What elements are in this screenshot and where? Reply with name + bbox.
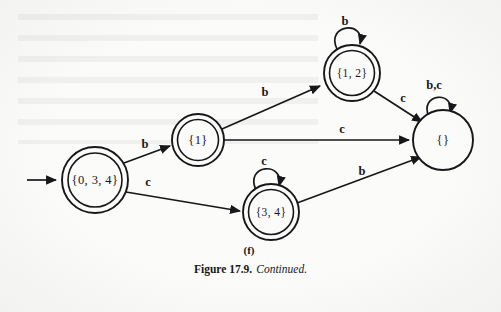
state-label-empty: {} — [437, 133, 450, 147]
subfigure-label: (f) — [244, 244, 255, 257]
figure-caption: Figure 17.9.Continued. — [0, 263, 501, 275]
edge-label-b-s1-s12: b — [262, 85, 269, 99]
figure-page: b c b c c b b — [0, 0, 501, 312]
edge-label-c-start-s34: c — [145, 175, 151, 189]
edge-label-c-s1-empty: c — [339, 122, 345, 136]
edge-label-b-s34-empty: b — [359, 164, 366, 178]
edge-label-c-s34-self: c — [261, 154, 267, 168]
figure-caption-text: Continued. — [256, 263, 307, 275]
edge-start-to-s1: b — [124, 137, 170, 163]
edge-s1-to-s12: b — [222, 85, 320, 129]
edge-label-b-start-s1: b — [142, 137, 149, 151]
edge-start-to-s34: c — [126, 175, 240, 211]
figure-caption-number: Figure 17.9. — [194, 263, 252, 275]
self-loop-s12: b — [335, 14, 361, 49]
edge-s34-to-empty: b — [297, 157, 421, 203]
edge-label-c-s12-empty: c — [400, 91, 406, 105]
state-label-s12: {1, 2} — [337, 67, 368, 80]
state-label-s34: {3, 4} — [256, 206, 287, 219]
edge-label-b-s12-self: b — [342, 14, 349, 28]
state-node-s12[interactable]: {1, 2} — [324, 45, 380, 101]
edge-s1-to-empty: c — [224, 122, 409, 140]
state-node-s1[interactable]: {1} — [172, 114, 224, 166]
state-node-s34[interactable]: {3, 4} — [243, 184, 299, 240]
state-node-empty[interactable]: {} — [413, 110, 473, 170]
edge-s12-to-empty: c — [374, 91, 422, 122]
state-node-start[interactable]: {0, 3, 4} — [62, 147, 128, 213]
state-label-s1: {1} — [188, 133, 207, 147]
state-label-start: {0, 3, 4} — [72, 173, 119, 187]
edge-label-bc-empty-self: b,c — [426, 78, 442, 92]
